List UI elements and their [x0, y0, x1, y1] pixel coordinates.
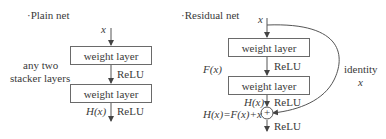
res-input-label: x: [258, 14, 263, 25]
residual-net-title: ·Residual net: [181, 10, 239, 21]
plain-side-label-line1: any two: [23, 60, 58, 71]
plain-input-label: x: [101, 24, 106, 35]
identity-var-label: x: [358, 77, 363, 88]
res-fx-label: F(x): [203, 64, 222, 75]
res-sum-equation: H(x)=F(x)+x: [203, 109, 262, 120]
res-weight-layer-1-label: weight layer: [242, 42, 297, 54]
plain-net-title: ·Plain net: [27, 10, 69, 21]
res-relu-2: ReLU: [274, 97, 301, 108]
plain-weight-layer-2: weight layer: [70, 84, 152, 103]
plain-weight-layer-2-label: weight layer: [84, 88, 139, 100]
sum-plus-icon: +: [263, 107, 271, 118]
res-relu-3: ReLU: [274, 121, 301, 132]
plain-side-label-line2: stacker layers: [10, 73, 70, 84]
plain-weight-layer-1-label: weight layer: [84, 50, 139, 62]
res-relu-1: ReLU: [274, 61, 301, 72]
plain-output-label: H(x): [86, 106, 106, 117]
identity-label: identity: [344, 64, 378, 75]
plain-weight-layer-1: weight layer: [70, 46, 152, 65]
res-weight-layer-1: weight layer: [228, 38, 310, 57]
res-weight-layer-2-label: weight layer: [242, 80, 297, 92]
res-hx-label: H(x): [244, 97, 264, 108]
plain-relu-1: ReLU: [117, 69, 144, 80]
plain-relu-2: ReLU: [117, 106, 144, 117]
res-weight-layer-2: weight layer: [228, 76, 310, 95]
